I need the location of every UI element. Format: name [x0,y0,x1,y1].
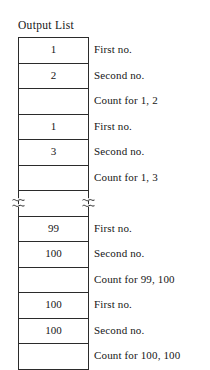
table-cell-value: 100 [18,318,89,343]
table-row-label: First no. [94,114,132,139]
table-cell-count-blank [18,88,89,113]
table-row-separator [18,190,89,191]
page-title: Output List [18,18,74,32]
table-cell-count-blank [18,343,89,368]
table-cell-value: 2 [18,63,89,88]
table-cell-count-blank [18,165,89,190]
line-break-squiggle-icon [12,195,25,211]
table-row-label: Count for 1, 3 [94,165,158,190]
table-cell-value: 100 [18,241,89,266]
table-cell-value: 100 [18,292,89,317]
table-row-label: Second no. [94,318,144,343]
table-row-label: Count for 1, 2 [94,88,158,113]
line-break-squiggle-icon [82,195,95,211]
table-row-label: First no. [94,37,132,62]
table-row-label: First no. [94,216,132,241]
table-cell-value: 99 [18,216,89,241]
table-row-label: First no. [94,292,132,317]
table-cell-value: 3 [18,139,89,164]
table-cell-count-blank [18,267,89,292]
table-row-label: Count for 100, 100 [94,343,180,368]
output-list-table: 121399100100100 [18,37,89,370]
table-row-label: Second no. [94,241,144,266]
table-cell-value: 1 [18,37,89,62]
table-cell-value: 1 [18,114,89,139]
table-row-label: Count for 99, 100 [94,267,175,292]
table-row-label: Second no. [94,139,144,164]
table-row-label: Second no. [94,63,144,88]
